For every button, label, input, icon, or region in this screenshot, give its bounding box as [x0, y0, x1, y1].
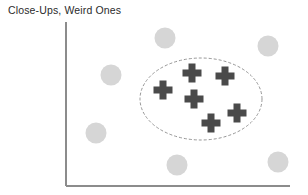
- close-up-cross-marker: [185, 90, 204, 109]
- outlier-circle-marker: [167, 155, 188, 176]
- outlier-circle-marker: [268, 152, 289, 173]
- outlier-circle-marker: [101, 65, 122, 86]
- close-up-cross-marker: [228, 104, 247, 123]
- outlier-circle-marker: [258, 36, 279, 57]
- close-up-cross-marker: [154, 81, 173, 100]
- close-up-cross-marker: [183, 64, 202, 83]
- scatter-plot: [0, 0, 308, 195]
- outlier-circle-marker: [86, 123, 107, 144]
- close-up-cross-marker: [202, 114, 221, 133]
- close-up-cross-marker: [216, 67, 235, 86]
- outlier-circle-marker: [155, 28, 176, 49]
- figure-container: Close-Ups, Weird Ones: [0, 0, 308, 195]
- close-ups-series: [154, 64, 247, 133]
